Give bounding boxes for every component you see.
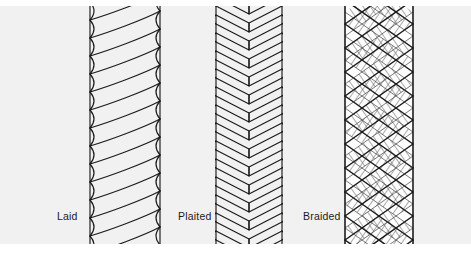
rope-illustration-plaited	[211, 6, 287, 244]
rope-label-braided: Braided	[303, 210, 341, 222]
rope-illustration-braided	[340, 6, 418, 244]
rope-label-laid: Laid	[57, 210, 78, 222]
rope-illustration-laid	[85, 6, 165, 244]
rope-construction-figure: Laid Plaited Braided	[0, 0, 471, 254]
figure-panel: Laid Plaited Braided	[0, 6, 471, 244]
rope-label-plaited: Plaited	[178, 210, 212, 222]
